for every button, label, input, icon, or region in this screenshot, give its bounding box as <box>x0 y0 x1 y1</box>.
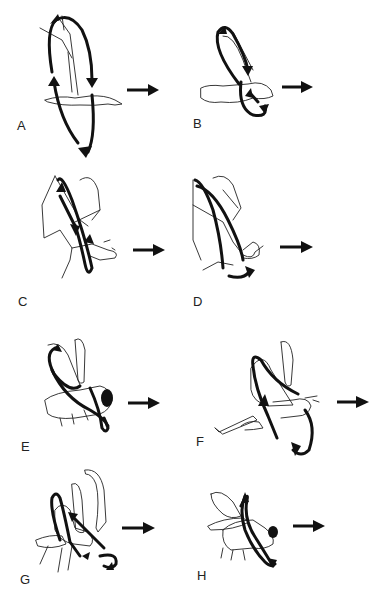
flight-direction-arrow-icon <box>280 241 313 253</box>
flight-direction-arrow-icon <box>127 84 159 96</box>
panel-label: H <box>197 568 206 583</box>
fly-illustration <box>193 460 387 597</box>
bat-illustration <box>0 160 193 310</box>
flight-direction-arrow-icon <box>293 520 325 532</box>
panel-label: A <box>17 118 26 133</box>
panel-label: D <box>193 294 202 309</box>
flight-direction-arrow-icon <box>282 81 313 93</box>
bird-gull-illustration <box>0 0 193 160</box>
panel-h: H <box>193 460 387 597</box>
panel-e: E <box>0 310 193 470</box>
panel-d: D <box>193 160 387 310</box>
panel-label: F <box>196 434 204 449</box>
panel-c: C <box>0 160 193 310</box>
panel-label: E <box>21 439 30 454</box>
panel-f: F <box>193 310 387 470</box>
flight-direction-arrow-icon <box>122 522 155 534</box>
panel-label: C <box>18 294 27 309</box>
bat-illustration <box>193 160 387 310</box>
flight-direction-arrow-icon <box>133 244 165 256</box>
flight-direction-arrow-icon <box>128 397 160 409</box>
bird-pigeon-illustration <box>193 0 387 160</box>
panel-a: A <box>0 0 193 160</box>
locust-illustration <box>193 310 387 470</box>
panel-label: B <box>193 116 202 131</box>
flight-direction-arrow-icon <box>337 396 369 408</box>
panel-g: G <box>0 460 193 597</box>
panel-b: B <box>193 0 387 160</box>
panel-label: G <box>20 572 30 587</box>
